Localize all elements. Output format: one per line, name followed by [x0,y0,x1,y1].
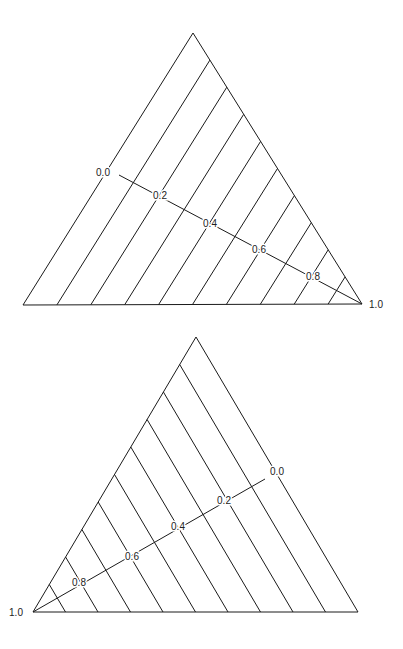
isoline [115,475,196,613]
isoline [180,365,326,613]
tick-label: 1.0 [369,299,383,310]
tick-label: 0.4 [171,521,185,532]
triangle-edges [33,337,358,612]
tick-label: 0.0 [96,167,110,178]
tick-labels: 0.0 0.2 0.4 0.6 0.8 1.0 [9,466,284,618]
ternary-figure: 0.0 0.2 0.4 0.6 0.8 1.0 0.0 0.2 0.4 0.6 … [0,0,403,649]
tick-label: 0.8 [306,271,320,282]
tick-labels: 0.0 0.2 0.4 0.6 0.8 1.0 [96,167,383,310]
tick-label: 0.6 [252,244,266,255]
triangle-edges [23,33,362,305]
tick-label: 0.2 [217,495,231,506]
tick-label: 0.8 [72,577,86,588]
tick-label: 0.2 [153,190,167,201]
tick-label: 0.4 [203,218,217,229]
tick-label: 0.6 [125,551,139,562]
top-triangle-diagram: 0.0 0.2 0.4 0.6 0.8 1.0 [23,33,383,310]
tick-label: 0.0 [270,466,284,477]
isoline [82,530,131,613]
tick-label: 1.0 [9,607,23,618]
isoline [147,420,260,613]
isolines [49,365,325,613]
bottom-triangle-diagram: 0.0 0.2 0.4 0.6 0.8 1.0 [9,337,358,618]
